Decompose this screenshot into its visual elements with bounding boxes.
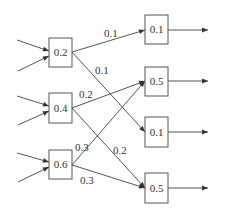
output-arrows — [168, 30, 208, 188]
edges — [72, 30, 145, 188]
input-arrow-icon — [17, 96, 49, 106]
edge-label: 0.3 — [75, 141, 89, 153]
edge-label: 0.3 — [80, 174, 94, 186]
edge-label: 0.1 — [104, 27, 118, 39]
node-label: 0.6 — [54, 158, 68, 170]
node-left-2: 0.4 — [49, 93, 72, 123]
node-label: 0.2 — [54, 46, 68, 58]
node-right-1: 0.1 — [145, 15, 168, 44]
node-left-1: 0.2 — [49, 38, 72, 67]
node-label: 0.4 — [54, 102, 68, 114]
node-label: 0.5 — [150, 75, 164, 87]
edge-label: 0.2 — [113, 144, 127, 156]
input-arrow-icon — [17, 40, 49, 51]
node-right-3: 0.1 — [145, 117, 168, 147]
input-arrows — [17, 40, 49, 182]
node-label: 0.1 — [150, 126, 164, 138]
input-arrow-icon — [17, 153, 49, 162]
input-arrow-icon — [18, 167, 49, 182]
node-label: 0.1 — [150, 23, 164, 35]
edge-label: 0.2 — [79, 88, 93, 100]
node-right-2: 0.5 — [145, 67, 168, 96]
node-right-4: 0.5 — [145, 173, 168, 203]
input-arrow-icon — [18, 56, 49, 71]
input-arrow-icon — [18, 111, 49, 125]
network-diagram: 0.1 0.1 0.2 0.2 0.3 0.3 0.2 0.4 0.6 0.1 … — [0, 0, 228, 214]
node-left-3: 0.6 — [49, 150, 72, 179]
edge-label: 0.1 — [95, 64, 109, 76]
node-label: 0.5 — [150, 182, 164, 194]
